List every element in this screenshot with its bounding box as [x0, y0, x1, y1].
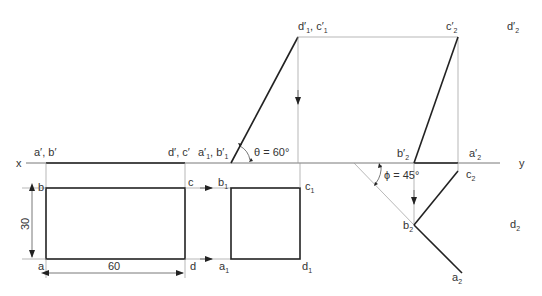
- label-c1: c1: [305, 180, 315, 194]
- label-c: c: [188, 176, 194, 188]
- phi-label: ϕ = 45°: [384, 169, 419, 181]
- label-a2-prime: a′2: [469, 147, 481, 161]
- second-front-view: c′2 d′2 b′2 a′2: [298, 20, 519, 163]
- dimension-60: 60: [108, 260, 120, 272]
- dimension-width: 60: [46, 259, 185, 278]
- label-c2-prime: c′2: [446, 20, 458, 34]
- label-d2-prime: d′2: [507, 20, 519, 34]
- theta-label: θ = 60°: [254, 146, 289, 158]
- label-d1-c1-prime: d′1, c′1: [298, 20, 328, 34]
- label-d: d: [190, 260, 196, 272]
- initial-top-view: b c a d: [22, 176, 196, 272]
- second-top-view: b1 c1 a1 d1: [218, 163, 315, 274]
- label-b: b: [38, 181, 44, 193]
- transfer-projectors: [185, 188, 231, 259]
- theta-arc: [240, 146, 250, 160]
- label-d2: d2: [510, 218, 520, 232]
- label-c2: c2: [466, 168, 476, 182]
- initial-front-view: a′, b′ d′, c′: [34, 146, 190, 188]
- label-d-c-prime: d′, c′: [168, 146, 190, 158]
- dimension-30: 30: [19, 218, 31, 230]
- label-b1: b1: [218, 176, 228, 190]
- label-a: a: [38, 260, 45, 272]
- y-label: y: [519, 157, 525, 169]
- label-b2-prime: b′2: [397, 147, 409, 161]
- label-a-b-prime: a′, b′: [34, 146, 56, 158]
- final-top-view: ϕ = 45° c2 b2 d2 a2: [354, 163, 520, 285]
- first-inclined-front-view: a′1, b′1 θ = 60° d′1, c′1: [198, 20, 328, 163]
- x-label: x: [16, 157, 22, 169]
- label-a1: a1: [219, 260, 229, 274]
- label-a2: a2: [452, 271, 462, 285]
- dimension-height: 30: [19, 190, 32, 257]
- label-a1-prime: a′1, b′1: [198, 146, 228, 160]
- label-d1: d1: [302, 260, 312, 274]
- projection-diagram: x y a′, b′ d′, c′ b c a d 30 60: [0, 0, 542, 296]
- label-b2: b2: [403, 219, 413, 233]
